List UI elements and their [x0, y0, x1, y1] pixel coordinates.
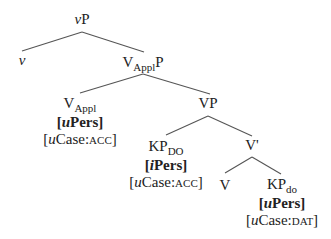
- node-vP-head: v: [74, 11, 81, 27]
- node-VApplP: VApplP: [122, 54, 163, 71]
- node-KPDO: KPDO [iPers] [uCase:acc]: [129, 138, 202, 191]
- bracket-close: ]: [313, 212, 318, 228]
- node-VAppl-sub: Appl: [74, 102, 96, 114]
- feature-name: Case:: [142, 174, 175, 190]
- feature-prefix: u: [134, 174, 142, 190]
- node-v: v: [19, 52, 26, 69]
- edge-VP-Vbar: [208, 116, 252, 136]
- edge-Vbar-V: [225, 157, 252, 173]
- node-V: V: [220, 177, 231, 194]
- node-KPdo-base: KP: [267, 176, 286, 192]
- feature-name: Pers: [154, 157, 182, 173]
- feature-name: Case:: [258, 212, 291, 228]
- edge-VP-KPDO: [166, 116, 208, 135]
- node-VApplP-sub: Appl: [133, 61, 155, 73]
- node-KPdo-case-feature: [uCase:dat]: [246, 212, 318, 229]
- node-vP: vP: [74, 11, 89, 28]
- node-VP-label: VP: [198, 95, 217, 111]
- node-KPDO-label: KPDO: [129, 138, 202, 155]
- edge-VApplP-VP: [143, 74, 210, 94]
- node-VAppl-case-feature: [uCase:acc]: [43, 131, 116, 148]
- edge-Vbar-KPdo: [252, 157, 281, 174]
- node-KPDO-pers-feature: [iPers]: [129, 157, 202, 174]
- node-KPdo-pers-feature: [uPers]: [246, 195, 318, 212]
- bracket-close: ]: [198, 174, 203, 190]
- node-KPDO-base: KP: [148, 138, 167, 154]
- feature-value: acc: [89, 131, 112, 147]
- bracket-close: ]: [112, 131, 117, 147]
- node-v-label: v: [19, 52, 26, 68]
- feature-prefix: u: [264, 195, 272, 211]
- node-VAppl-pers-feature: [uPers]: [43, 114, 116, 131]
- feature-value: acc: [175, 174, 198, 190]
- node-Vbar-label: V': [245, 137, 259, 153]
- node-KPDO-case-feature: [uCase:acc]: [129, 174, 202, 191]
- bracket-close: ]: [300, 195, 305, 211]
- node-VApplP-tail: P: [155, 54, 163, 70]
- node-V-label: V: [220, 177, 231, 193]
- edge-VApplP-VAppl: [80, 74, 143, 93]
- feature-value: dat: [292, 212, 313, 228]
- node-KPdo-label: KPdo: [246, 176, 318, 193]
- node-KPdo: KPdo [uPers] [uCase:dat]: [246, 176, 318, 229]
- bracket-close: ]: [182, 157, 187, 173]
- node-VAppl-base: V: [64, 95, 75, 111]
- node-VAppl-label: VAppl: [43, 95, 116, 112]
- feature-name: Case:: [56, 131, 89, 147]
- feature-prefix: u: [62, 114, 70, 130]
- node-VP: VP: [198, 95, 217, 112]
- feature-prefix: u: [48, 131, 56, 147]
- feature-name: Pers: [70, 114, 98, 130]
- node-KPDO-sub: DO: [168, 145, 184, 157]
- edge-vP-VApplP: [82, 32, 144, 52]
- feature-name: Pers: [272, 195, 300, 211]
- bracket-close: ]: [98, 114, 103, 130]
- node-KPdo-sub: do: [286, 183, 297, 195]
- node-vP-tail: P: [81, 11, 89, 27]
- node-Vbar: V': [245, 137, 259, 154]
- node-VAppl: VAppl [uPers] [uCase:acc]: [43, 95, 116, 148]
- edge-vP-v: [22, 32, 82, 51]
- node-VApplP-base: V: [122, 54, 133, 70]
- feature-prefix: u: [251, 212, 259, 228]
